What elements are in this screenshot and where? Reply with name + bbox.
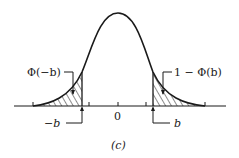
left-cut-leader — [66, 108, 82, 123]
right-cut-label: b — [174, 117, 181, 130]
right-region-label: 1 − Φ(b) — [174, 66, 222, 79]
normal-distribution-diagram: Φ(−b) 1 − Φ(b) 0 −b b (c) — [0, 0, 239, 158]
center-label: 0 — [114, 110, 121, 123]
right-cut-leader — [153, 108, 170, 123]
figure-caption: (c) — [111, 139, 126, 152]
left-region-label: Φ(−b) — [27, 66, 61, 79]
left-cut-label: −b — [44, 117, 60, 130]
density-curve — [33, 13, 205, 106]
